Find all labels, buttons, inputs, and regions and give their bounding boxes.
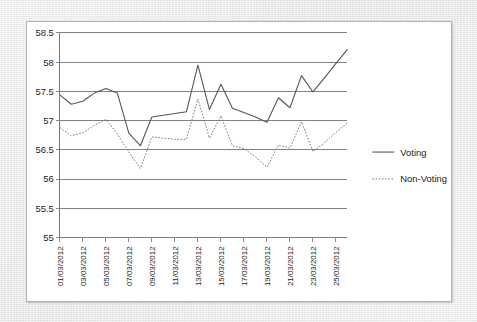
series-line-non-voting: [60, 99, 348, 169]
y-axis-tick-label: 56: [43, 173, 54, 184]
series-line-voting: [60, 49, 348, 145]
y-axis-tick-label: 57.5: [35, 86, 53, 97]
chart-panel: 5555.55656.55757.55858.5 01/03/201203/03…: [26, 21, 452, 302]
y-axis-tick-label: 58: [43, 57, 54, 68]
y-axis-labels: 5555.55656.55757.55858.5: [35, 27, 53, 243]
y-axis-tick-label: 55.5: [35, 203, 53, 214]
y-axis-tick-label: 55: [43, 232, 54, 243]
data-series-group: [60, 49, 348, 168]
x-axis-tick-label: 01/03/2012: [56, 246, 65, 286]
x-axis-tick-label: 19/03/2012: [263, 246, 272, 286]
gridlines-group: [56, 33, 348, 238]
y-axis-tick-label: 56.5: [35, 144, 53, 155]
x-axis-ticks: [60, 237, 336, 242]
x-axis-labels: 01/03/201203/03/201205/03/201207/03/2012…: [56, 246, 341, 286]
line-chart: 5555.55656.55757.55858.5 01/03/201203/03…: [27, 22, 451, 301]
legend-label-voting: Voting: [400, 147, 426, 158]
legend-label-non-voting: Non-Voting: [400, 173, 447, 184]
x-axis-tick-label: 25/03/2012: [332, 246, 341, 286]
x-axis-tick-label: 07/03/2012: [125, 246, 134, 286]
x-axis-tick-label: 09/03/2012: [148, 246, 157, 286]
x-axis-tick-label: 13/03/2012: [194, 246, 203, 286]
x-axis-tick-label: 03/03/2012: [79, 246, 88, 286]
axis-lines: [60, 33, 348, 238]
x-axis-tick-label: 21/03/2012: [286, 246, 295, 286]
chart-legend: VotingNon-Voting: [372, 147, 447, 185]
x-axis-tick-label: 17/03/2012: [240, 246, 249, 286]
y-axis-tick-label: 58.5: [35, 27, 53, 38]
x-axis-tick-label: 15/03/2012: [217, 246, 226, 286]
x-axis-tick-label: 23/03/2012: [309, 246, 318, 286]
x-axis-tick-label: 05/03/2012: [102, 246, 111, 286]
y-axis-tick-label: 57: [43, 115, 54, 126]
x-axis-tick-label: 11/03/2012: [171, 246, 180, 286]
